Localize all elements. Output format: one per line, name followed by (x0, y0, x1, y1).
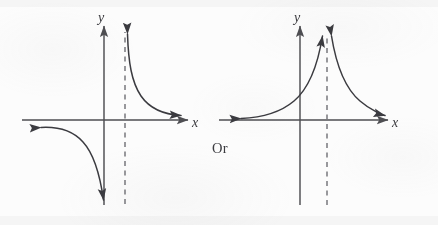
lower-left-branch (41, 127, 104, 200)
x-axis-label: x (391, 115, 399, 130)
left-branch (241, 36, 323, 119)
figure-root: y x Or y x (0, 0, 438, 225)
y-axis-label: y (292, 10, 301, 25)
even-asymptote-graph: y x (219, 0, 438, 225)
odd-asymptote-graph: y x (0, 0, 219, 225)
y-axis-label: y (96, 10, 105, 25)
x-axis-label: x (191, 115, 199, 130)
upper-right-branch (128, 34, 182, 116)
right-branch (332, 36, 386, 116)
